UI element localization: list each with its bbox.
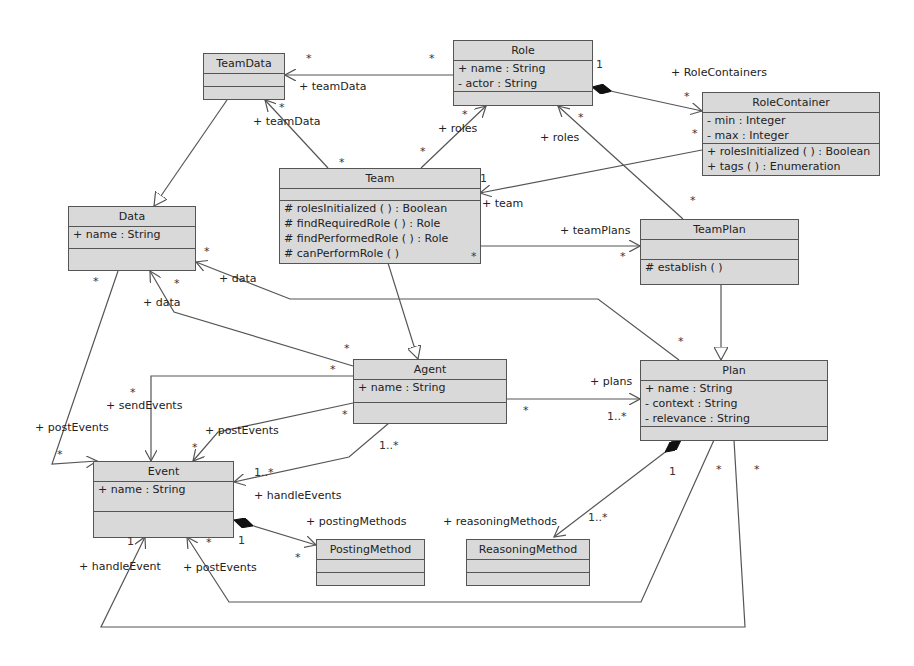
attribute: - max : Integer	[707, 128, 875, 143]
class-reasoningmethod[interactable]: ReasoningMethod	[466, 539, 590, 586]
role-label: + reasoningMethods	[443, 515, 557, 528]
role-label: + plans	[590, 375, 632, 388]
role-label: + data	[143, 296, 181, 309]
class-teamdata[interactable]: TeamData	[203, 53, 285, 100]
multiplicity: *	[716, 463, 722, 476]
multiplicity: *	[57, 448, 63, 461]
multiplicity: *	[206, 536, 212, 549]
class-name: Agent	[354, 360, 506, 380]
class-agent[interactable]: Agent + name : String	[353, 359, 507, 424]
operations-compartment: # establish ( )	[641, 260, 798, 275]
attribute: - context : String	[645, 396, 823, 411]
operations-compartment: # rolesInitialized ( ) : Boolean # findR…	[280, 201, 480, 261]
class-plan[interactable]: Plan + name : String - context : String …	[640, 360, 828, 441]
multiplicity: *	[462, 108, 468, 121]
operations-compartment	[641, 427, 827, 440]
multiplicity: 1	[238, 534, 245, 547]
multiplicity: *	[678, 335, 684, 348]
operation: + rolesInitialized ( ) : Boolean	[707, 144, 875, 159]
attributes-compartment: + name : String	[69, 227, 195, 249]
attributes-compartment: + name : String	[94, 482, 233, 512]
multiplicity: *	[471, 250, 477, 263]
multiplicity: *	[420, 145, 426, 158]
role-label: + team	[482, 197, 523, 210]
operation: # canPerformRole ( )	[284, 246, 476, 261]
attribute: - min : Integer	[707, 113, 875, 128]
attribute: - actor : String	[458, 76, 588, 91]
attribute: + name : String	[358, 380, 502, 395]
uml-class-diagram: TeamData Role + name : String - actor : …	[0, 0, 914, 666]
attribute: + name : String	[645, 381, 823, 396]
multiplicity: *	[192, 441, 198, 454]
role-label: + handleEvents	[254, 489, 341, 502]
class-name: Data	[69, 207, 195, 227]
multiplicity: *	[295, 551, 301, 564]
class-name: Event	[94, 462, 233, 482]
multiplicity: *	[174, 277, 180, 290]
operation: # rolesInitialized ( ) : Boolean	[284, 201, 476, 216]
role-label: + sendEvents	[106, 399, 182, 412]
class-name: Team	[280, 169, 480, 189]
role-label: + roles	[438, 122, 477, 135]
role-label: + teamData	[299, 80, 367, 93]
role-label: + postEvents	[35, 421, 109, 434]
class-name: TeamData	[204, 54, 284, 74]
role-label: + teamData	[253, 115, 321, 128]
class-team[interactable]: Team # rolesInitialized ( ) : Boolean # …	[279, 168, 481, 264]
multiplicity: 1	[596, 58, 603, 71]
class-name: TeamPlan	[641, 220, 798, 240]
attribute: + name : String	[73, 227, 191, 242]
multiplicity: 1	[669, 465, 676, 478]
class-event[interactable]: Event + name : String	[93, 461, 234, 538]
attributes-compartment: + name : String - actor : String	[454, 61, 592, 92]
multiplicity: *	[93, 275, 99, 288]
operation: # findRequiredRole ( ) : Role	[284, 216, 476, 231]
operations-compartment	[467, 573, 589, 586]
multiplicity: 1..*	[379, 439, 399, 452]
multiplicity: 1..*	[607, 410, 627, 423]
multiplicity: *	[344, 342, 350, 355]
role-label: + postingMethods	[306, 515, 406, 528]
multiplicity: *	[523, 404, 529, 417]
class-role[interactable]: Role + name : String - actor : String	[453, 40, 593, 106]
operation: # establish ( )	[645, 260, 794, 275]
multiplicity: 1	[127, 535, 134, 548]
role-label: + handleEvent	[79, 560, 161, 573]
multiplicity: *	[578, 111, 584, 124]
class-teamplan[interactable]: TeamPlan # establish ( )	[640, 219, 799, 285]
attribute: + name : String	[458, 61, 588, 76]
multiplicity: 1..*	[254, 466, 274, 479]
class-name: PostingMethod	[317, 540, 424, 560]
attribute: + name : String	[98, 482, 229, 497]
role-label: + RoleContainers	[671, 66, 767, 79]
attributes-compartment	[467, 560, 589, 573]
attributes-compartment	[204, 74, 284, 87]
attributes-compartment: + name : String	[354, 380, 506, 403]
class-rolecontainer[interactable]: RoleContainer - min : Integer - max : In…	[702, 92, 880, 176]
class-name: Plan	[641, 361, 827, 381]
operations-compartment	[69, 249, 195, 271]
role-label: + data	[219, 272, 257, 285]
multiplicity: *	[339, 156, 345, 169]
multiplicity: *	[754, 463, 760, 476]
multiplicity: *	[306, 52, 312, 65]
multiplicity: *	[342, 408, 348, 421]
class-postingmethod[interactable]: PostingMethod	[316, 539, 425, 586]
operations-compartment	[204, 87, 284, 100]
role-label: + roles	[540, 131, 579, 144]
multiplicity: 1	[480, 172, 487, 185]
attributes-compartment: + name : String - context : String - rel…	[641, 381, 827, 427]
class-name: Role	[454, 41, 592, 61]
class-name: RoleContainer	[703, 93, 879, 113]
role-label: + postEvents	[205, 424, 279, 437]
attributes-compartment	[280, 189, 480, 201]
multiplicity: *	[429, 52, 435, 65]
operations-compartment	[317, 573, 424, 586]
role-label: + postEvents	[183, 561, 257, 574]
operation: + tags ( ) : Enumeration	[707, 159, 875, 174]
operations-compartment	[354, 403, 506, 424]
operations-compartment: + rolesInitialized ( ) : Boolean + tags …	[703, 144, 879, 174]
attributes-compartment	[641, 240, 798, 260]
multiplicity: *	[692, 127, 698, 140]
class-data[interactable]: Data + name : String	[68, 206, 196, 271]
